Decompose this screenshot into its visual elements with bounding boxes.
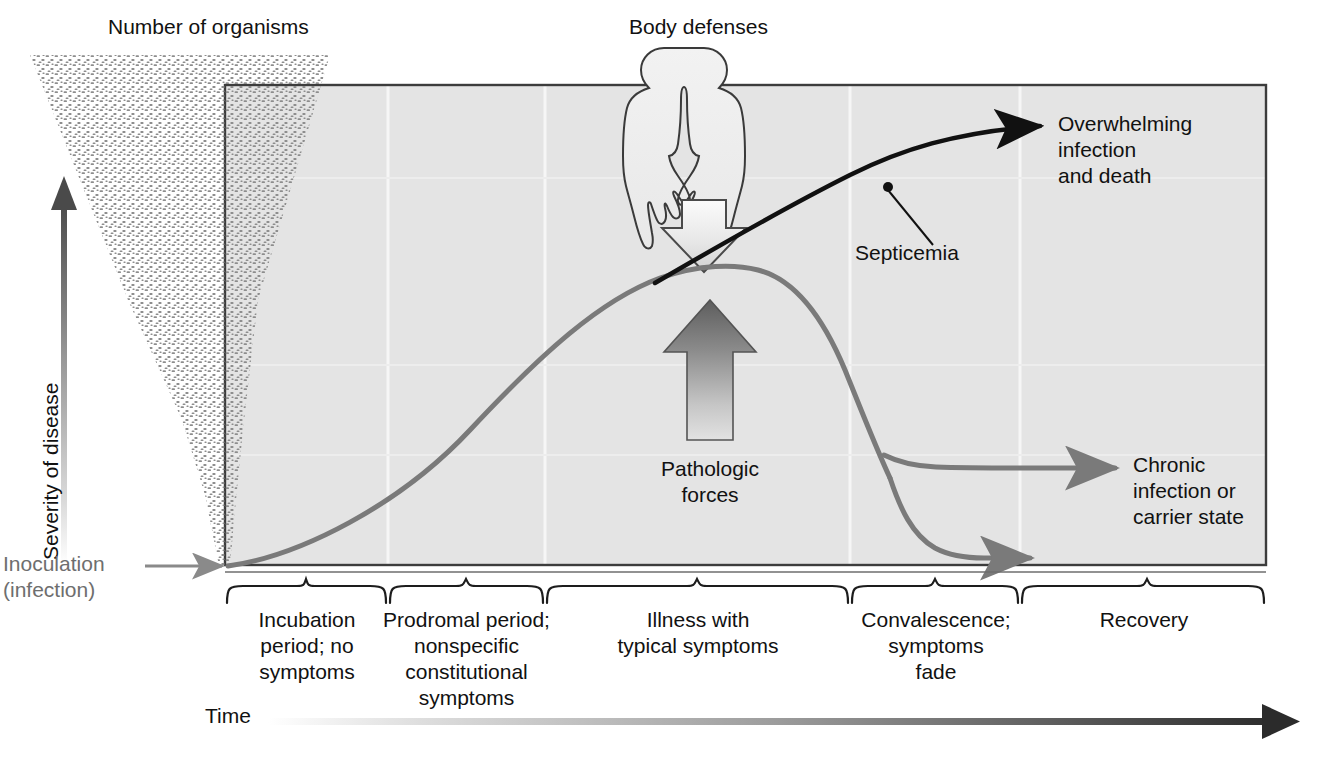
pathologic-forces-label: Pathologic forces	[640, 456, 780, 508]
septicemia-label: Septicemia	[855, 240, 959, 266]
phase-label-recovery: Recovery	[1021, 607, 1267, 633]
outcome-chronic-infection-label: Chronic infection or carrier state	[1133, 452, 1244, 530]
x-axis-label: Time	[205, 703, 251, 729]
phase-label-prodromal: Prodromal period; nonspecific constituti…	[379, 607, 554, 711]
inoculation-label: Inoculation (infection)	[3, 551, 105, 603]
outcome-overwhelming-infection-label: Overwhelming infection and death	[1058, 111, 1192, 189]
phase-label-convalescence: Convalescence; symptoms fade	[851, 607, 1021, 685]
body-defenses-title: Body defenses	[629, 14, 768, 40]
infectious-disease-diagram: Number of organisms Body defenses Severi…	[0, 0, 1320, 764]
phase-braces	[227, 579, 1264, 603]
y-axis-label: Severity of disease	[38, 383, 64, 560]
phase-label-illness: Illness with typical symptoms	[546, 607, 850, 659]
number-of-organisms-title: Number of organisms	[108, 14, 309, 40]
phase-label-incubation: Incubation period; no symptoms	[226, 607, 388, 685]
